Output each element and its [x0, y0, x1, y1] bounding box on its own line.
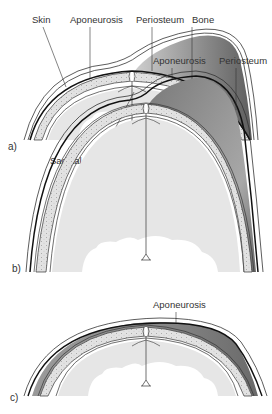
panel-label-a: a)	[8, 141, 17, 152]
panel-label-c: c)	[10, 392, 18, 403]
label-aponeurosis-c: Aponeurosis	[153, 299, 206, 310]
label-periosteum-b: Periosteum	[219, 55, 267, 66]
label-periosteum: Periosteum	[136, 14, 184, 25]
label-aponeurosis: Aponeurosis	[70, 14, 123, 25]
label-skin: Skin	[32, 14, 50, 25]
panel-c: Aponeurosis c)	[10, 299, 267, 403]
label-bone: Bone	[192, 14, 214, 25]
panel-label-b: b)	[12, 263, 21, 274]
scalp-hematoma-diagram: Skin Aponeurosis Periosteum Bone Sagitta…	[0, 0, 272, 414]
label-aponeurosis-b: Aponeurosis	[153, 55, 206, 66]
